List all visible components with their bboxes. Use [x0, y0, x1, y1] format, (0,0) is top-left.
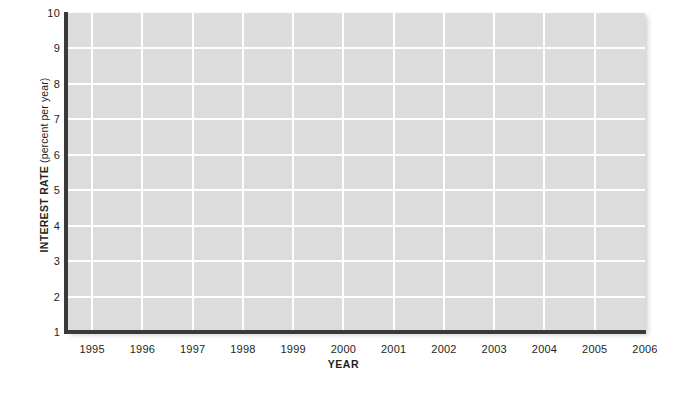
y-axis-line	[64, 12, 68, 334]
gridline-vertical	[443, 13, 445, 332]
gridline-horizontal	[67, 154, 645, 156]
gridline-vertical	[141, 13, 143, 332]
gridline-horizontal	[67, 296, 645, 298]
y-axis-tick-label: 1	[34, 327, 60, 338]
gridline-vertical	[242, 13, 244, 332]
x-axis-title: YEAR	[313, 358, 373, 370]
gridline-vertical	[292, 13, 294, 332]
gridline-vertical	[594, 13, 596, 332]
gridline-vertical	[393, 13, 395, 332]
interest-rate-chart-figure: 10987654321 INTEREST RATE (percent per y…	[0, 0, 688, 393]
y-axis-title-units: (percent per year)	[38, 78, 50, 163]
y-axis-tick-label: 10	[34, 8, 60, 19]
gridline-vertical	[192, 13, 194, 332]
gridline-horizontal	[67, 47, 645, 49]
gridline-horizontal	[67, 83, 645, 85]
x-axis-tick-label: 2006	[615, 343, 675, 355]
gridline-horizontal	[67, 118, 645, 120]
gridline-vertical	[543, 13, 545, 332]
gridline-horizontal	[67, 189, 645, 191]
y-axis-title-main: INTEREST RATE	[38, 166, 50, 253]
gridline-vertical	[91, 13, 93, 332]
gridline-vertical	[493, 13, 495, 332]
plot-area	[67, 13, 645, 332]
gridline-vertical	[342, 13, 344, 332]
x-axis-line	[64, 330, 646, 334]
gridline-horizontal	[67, 260, 645, 262]
y-axis-title: INTEREST RATE (percent per year)	[38, 35, 50, 295]
x-axis-tick-labels: 1995199619971998199920002001200220032004…	[0, 343, 688, 359]
gridline-horizontal	[67, 225, 645, 227]
